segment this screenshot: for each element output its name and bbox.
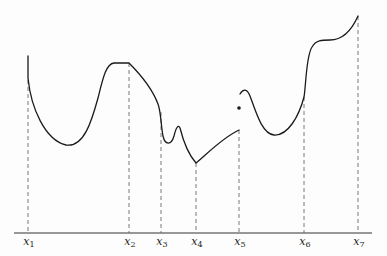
curve-segment-left xyxy=(28,56,239,163)
isolated-point xyxy=(237,106,241,110)
label-x4: x4 xyxy=(191,236,202,249)
function-graph-figure: x1 x2 x3 x4 x5 x6 x7 xyxy=(0,0,387,256)
label-x7: x7 xyxy=(353,236,364,249)
graph-canvas xyxy=(0,0,387,256)
label-x3: x3 xyxy=(156,236,167,249)
curve-segment-right xyxy=(240,16,358,135)
label-x1: x1 xyxy=(23,236,34,249)
label-x5: x5 xyxy=(234,236,245,249)
label-x6: x6 xyxy=(299,236,310,249)
label-x2: x2 xyxy=(124,236,135,249)
